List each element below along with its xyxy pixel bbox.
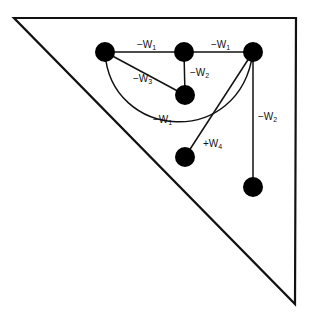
node-n5 xyxy=(175,147,195,167)
edge-label-n3-n5: +W4 xyxy=(203,138,222,150)
edge-label-n3-n6: −W2 xyxy=(258,111,277,123)
edge-label-n1-n2: −W1 xyxy=(137,39,156,51)
node-n3 xyxy=(243,42,263,62)
node-n1 xyxy=(95,42,115,62)
edge-label-n1-n3-arc: −W1 xyxy=(153,114,172,126)
node-n6 xyxy=(243,177,263,197)
edge-label-n2-n3: −W1 xyxy=(211,39,230,51)
node-n2 xyxy=(174,42,194,62)
edge-label-n1-n4: −W3 xyxy=(133,73,152,85)
node-n4 xyxy=(175,85,195,105)
diagram-canvas: −W1 −W1 −W2 −W3 −W1 +W4 −W2 xyxy=(0,0,314,314)
edge-label-n2-n4: −W2 xyxy=(190,67,209,79)
